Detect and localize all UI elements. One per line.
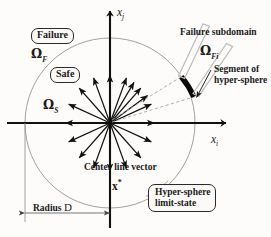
radius-dimension-label: Radius D xyxy=(33,202,72,214)
omega-failure-label: ΩF xyxy=(31,47,47,63)
center-line-vector-label: Center line vector xyxy=(84,163,157,173)
center-line-vector-group xyxy=(66,75,155,171)
vertical-axis-label: xj xyxy=(117,6,124,21)
segment-of-hypersphere-label: Segment of hyper-sphere xyxy=(214,64,267,85)
figure-container: xj xi Failure ΩF Safe ΩS Failure subdoma… xyxy=(0,0,271,237)
failure-subdomain-arc xyxy=(181,77,194,97)
horizontal-axis-label: xi xyxy=(211,133,218,148)
safe-region-label: Safe xyxy=(50,67,80,83)
hypersphere-label-line1: Hyper-sphere xyxy=(155,187,210,198)
radius-symbol: D xyxy=(64,201,72,213)
segment-label-line2: hyper-sphere xyxy=(214,75,267,86)
omega-failure-subdomain-label: ΩFi xyxy=(200,44,218,60)
radius-prefix: Radius xyxy=(33,203,62,213)
leader-segment-of-hypersphere xyxy=(197,70,212,98)
failure-region-label: Failure xyxy=(31,28,74,44)
hypersphere-label-line2: limit-state xyxy=(155,198,210,209)
omega-safe-label: ΩS xyxy=(43,98,58,114)
hypersphere-limit-state-label: Hyper-sphere limit-state xyxy=(148,184,216,212)
design-point-label: x* xyxy=(112,179,122,192)
leader-lines xyxy=(197,70,212,98)
segment-label-line1: Segment of xyxy=(214,64,267,75)
failure-subdomain-label: Failure subdomain xyxy=(180,28,257,38)
dashed-ray-lower xyxy=(112,97,194,122)
dashed-ray-upper xyxy=(112,77,181,120)
